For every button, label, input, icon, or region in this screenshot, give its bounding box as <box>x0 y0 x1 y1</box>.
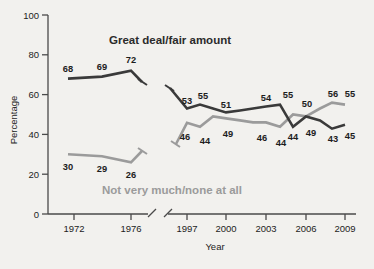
x-tick-label-2003: 2003 <box>255 223 276 234</box>
x-tick-label-2006: 2006 <box>295 223 316 234</box>
series-dark-left-segment <box>68 71 142 82</box>
x-tick-label-2000: 2000 <box>215 223 236 234</box>
data-label-dark-69: 69 <box>97 62 107 72</box>
data-label-gray-49b: 49 <box>306 128 316 138</box>
data-label-dark-45: 45 <box>345 131 355 141</box>
data-label-gray-29: 29 <box>97 164 107 174</box>
data-label-dark-44: 44 <box>288 132 299 142</box>
series-annotation-not-very-much: Not very much/none at all <box>102 184 242 196</box>
data-label-gray-56: 56 <box>328 89 338 99</box>
data-label-dark-55a: 55 <box>198 91 208 101</box>
y-axis-title: Percentage <box>8 96 19 145</box>
data-label-gray-49a: 49 <box>223 129 233 139</box>
series-annotation-great-deal: Great deal/fair amount <box>109 34 231 46</box>
data-label-dark-51: 51 <box>221 100 231 110</box>
data-label-dark-72: 72 <box>126 55 136 65</box>
series-gray-break-right-icon <box>171 141 180 147</box>
y-tick-label-0: 0 <box>34 209 39 220</box>
y-tick-label-100: 100 <box>23 10 39 21</box>
data-label-gray-50: 50 <box>302 99 312 109</box>
y-tick-label-80: 80 <box>28 49 39 60</box>
data-label-dark-53: 53 <box>182 96 192 106</box>
series-gray-left-segment <box>68 151 142 162</box>
axis-break-right-icon <box>164 209 172 217</box>
line-chart: 100 80 60 40 20 0 1972 1976 1997 2000 20… <box>0 0 374 269</box>
data-label-gray-44a: 44 <box>200 136 211 146</box>
x-tick-label-1997: 1997 <box>176 223 197 234</box>
chart-container: 100 80 60 40 20 0 1972 1976 1997 2000 20… <box>0 0 374 269</box>
axis-break-left-icon <box>148 209 156 217</box>
data-label-gray-44b: 44 <box>276 138 287 148</box>
data-label-dark-54: 54 <box>261 93 272 103</box>
y-tick-label-60: 60 <box>28 89 39 100</box>
x-tick-label-1972: 1972 <box>63 223 84 234</box>
data-label-dark-43: 43 <box>328 134 338 144</box>
x-tick-label-1976: 1976 <box>120 223 141 234</box>
data-label-dark-68: 68 <box>63 64 73 74</box>
series-dark-break-left-icon <box>138 79 147 85</box>
y-ticks <box>42 15 48 214</box>
data-label-gray-46b: 46 <box>257 133 267 143</box>
y-tick-label-40: 40 <box>28 129 39 140</box>
x-ticks <box>74 214 345 220</box>
x-axis-title: Year <box>205 241 224 252</box>
data-label-gray-46a: 46 <box>180 132 190 142</box>
data-label-gray-30: 30 <box>63 162 73 172</box>
data-label-gray-26: 26 <box>126 170 136 180</box>
y-tick-label-20: 20 <box>28 169 39 180</box>
x-tick-label-2009: 2009 <box>334 223 355 234</box>
data-label-gray-55: 55 <box>345 89 355 99</box>
data-label-dark-55b: 55 <box>283 90 293 100</box>
